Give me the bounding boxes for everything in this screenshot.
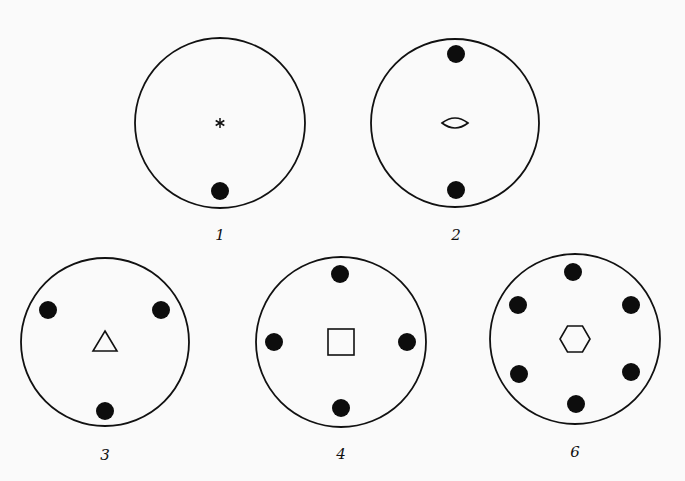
asterisk-icon xyxy=(216,118,225,128)
black-dot xyxy=(398,333,416,351)
panel-label: 6 xyxy=(570,443,580,461)
panel-3: 3 xyxy=(21,258,189,464)
panel-label: 2 xyxy=(450,226,461,244)
black-dot xyxy=(331,265,349,283)
black-dot xyxy=(211,182,229,200)
panel-4: 4 xyxy=(256,257,426,463)
square-icon xyxy=(328,329,354,355)
black-dot xyxy=(510,365,528,383)
black-dot xyxy=(622,363,640,381)
black-dot xyxy=(447,181,465,199)
black-dot xyxy=(39,301,57,319)
black-dot xyxy=(332,399,350,417)
black-dot xyxy=(265,333,283,351)
triangle-icon xyxy=(93,331,117,351)
black-dot xyxy=(509,296,527,314)
panel-label: 4 xyxy=(335,445,346,463)
black-dot xyxy=(152,301,170,319)
panel-label: 1 xyxy=(215,226,225,244)
lens-icon xyxy=(442,118,468,128)
panel-1: 1 xyxy=(135,38,305,244)
black-dot xyxy=(447,45,465,63)
panel-2: 2 xyxy=(371,39,539,244)
black-dot xyxy=(96,402,114,420)
outer-circle xyxy=(21,258,189,426)
symmetry-diagram: 12346 xyxy=(0,0,685,481)
black-dot xyxy=(622,296,640,314)
hexagon-icon xyxy=(560,326,590,352)
panel-6: 6 xyxy=(490,254,660,461)
black-dot xyxy=(564,263,582,281)
black-dot xyxy=(567,395,585,413)
panel-label: 3 xyxy=(100,446,110,464)
